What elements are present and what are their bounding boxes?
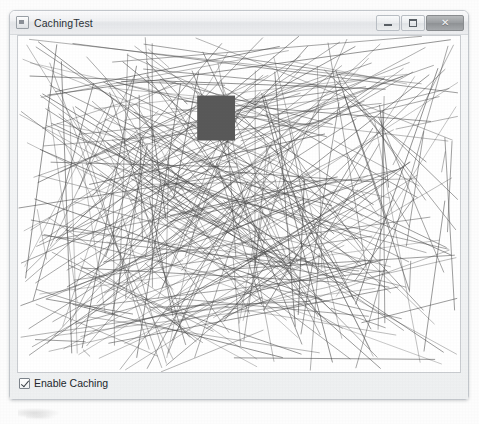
minimize-icon [384, 24, 392, 26]
scan-artifact-lower [26, 414, 56, 420]
random-lines-scene [18, 36, 460, 372]
application-window: CachingTest ✕ Enable Caching [9, 10, 469, 400]
close-icon: ✕ [441, 18, 449, 28]
enable-caching-label: Enable Caching [34, 377, 108, 389]
maximize-button[interactable] [401, 15, 425, 31]
system-menu-icon[interactable] [16, 16, 29, 29]
title-bar[interactable]: CachingTest ✕ [10, 11, 468, 35]
window-controls: ✕ [376, 15, 464, 31]
minimize-button[interactable] [376, 15, 400, 31]
options-strip: Enable Caching [17, 373, 461, 393]
line-group [19, 36, 458, 372]
checkbox-indicator[interactable] [19, 378, 30, 389]
enable-caching-checkbox[interactable]: Enable Caching [19, 377, 108, 389]
maximize-icon [409, 19, 417, 27]
client-area: Enable Caching [10, 35, 468, 399]
window-title: CachingTest [34, 17, 93, 29]
close-button[interactable]: ✕ [426, 15, 464, 31]
drawing-canvas[interactable] [17, 35, 461, 373]
cached-square [197, 96, 235, 141]
